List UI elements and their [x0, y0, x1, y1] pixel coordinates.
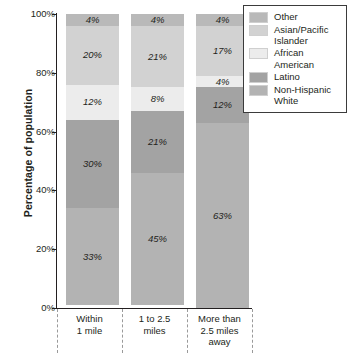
- legend-label: Other: [274, 11, 298, 22]
- bar-segment-label: 20%: [83, 50, 102, 60]
- bar-segment-label: 4%: [216, 15, 230, 25]
- category-label-line: 1 to 2.5: [123, 313, 187, 325]
- category-divider: [252, 309, 253, 353]
- bar-segment[interactable]: 21%: [131, 26, 184, 88]
- bar-segment-label: 21%: [148, 52, 167, 62]
- legend-item-4[interactable]: Non-HispanicWhite: [249, 84, 342, 106]
- bar-segment[interactable]: 4%: [66, 14, 119, 26]
- bar-segment-label: 4%: [216, 77, 230, 87]
- y-axis-tick-label: 40%: [15, 186, 55, 196]
- category-label-line: away: [188, 336, 252, 348]
- legend-label: Asian/PacificIslander: [274, 24, 328, 46]
- legend-label-line: Latino: [274, 71, 300, 82]
- bar-segment[interactable]: 45%: [131, 173, 184, 305]
- bar-segment[interactable]: 17%: [196, 26, 249, 76]
- y-axis-tick-label: 60%: [15, 127, 55, 137]
- legend: OtherAsian/PacificIslanderAfricanAmerica…: [243, 5, 347, 113]
- legend-item-1[interactable]: Asian/PacificIslander: [249, 24, 342, 46]
- legend-item-0[interactable]: Other: [249, 11, 342, 23]
- legend-item-3[interactable]: Latino: [249, 71, 342, 83]
- bar-segment-label: 4%: [86, 15, 100, 25]
- legend-swatch: [249, 12, 268, 23]
- legend-label-line: Islander: [274, 35, 328, 46]
- bar-segment[interactable]: 4%: [196, 76, 249, 88]
- category-label-line: 1 mile: [58, 325, 122, 337]
- bar-segment[interactable]: 8%: [131, 87, 184, 111]
- bar-segment-label: 63%: [213, 211, 232, 221]
- legend-label-line: African: [274, 47, 314, 58]
- legend-swatch: [249, 72, 268, 83]
- bar-column-0[interactable]: 4%20%12%30%33%: [66, 14, 119, 308]
- legend-swatch: [249, 25, 268, 36]
- bar-segment[interactable]: 20%: [66, 26, 119, 85]
- legend-label: AfricanAmerican: [274, 47, 314, 69]
- bar-segment-label: 12%: [213, 100, 232, 110]
- bar-segment[interactable]: 12%: [196, 87, 249, 122]
- y-axis-tick-label: 20%: [15, 244, 55, 254]
- legend-label: Non-HispanicWhite: [274, 84, 331, 106]
- bar-segment-label: 8%: [151, 94, 165, 104]
- category-label-line: miles: [123, 325, 187, 337]
- legend-swatch: [249, 48, 268, 59]
- bar-segment[interactable]: 30%: [66, 120, 119, 208]
- bar-segment[interactable]: 33%: [66, 208, 119, 305]
- bar-segment-label: 17%: [213, 46, 232, 56]
- legend-label-line: American: [274, 59, 314, 70]
- x-axis-category-label-1: 1 to 2.5miles: [123, 313, 187, 336]
- category-label-line: 2.5 miles: [188, 325, 252, 337]
- bar-segment-label: 33%: [83, 252, 102, 262]
- category-label-line: Within: [58, 313, 122, 325]
- legend-label-line: Asian/Pacific: [274, 24, 328, 35]
- bar-segment-label: 45%: [148, 234, 167, 244]
- y-axis-tick-label: 80%: [15, 68, 55, 78]
- category-label-line: More than: [188, 313, 252, 325]
- x-axis-line: [56, 308, 252, 309]
- stacked-bar-chart: Percentage of population 100%80%60%40%20…: [0, 0, 351, 356]
- x-axis-category-label-0: Within1 mile: [58, 313, 122, 336]
- bar-segment-label: 21%: [148, 137, 167, 147]
- plot-area: 4%20%12%30%33%4%21%8%21%45%4%17%4%12%63%: [57, 14, 252, 308]
- x-axis-category-label-2: More than2.5 milesaway: [188, 313, 252, 348]
- bar-column-2[interactable]: 4%17%4%12%63%: [196, 14, 249, 308]
- bar-segment-label: 12%: [83, 97, 102, 107]
- bar-segment-label: 30%: [83, 159, 102, 169]
- bar-segment[interactable]: 4%: [131, 14, 184, 26]
- legend-label-line: Non-Hispanic: [274, 84, 331, 95]
- y-axis-tick-label: 100%: [15, 9, 55, 19]
- y-axis-tick-label: 0%: [15, 303, 55, 313]
- bar-column-1[interactable]: 4%21%8%21%45%: [131, 14, 184, 308]
- bar-segment[interactable]: 12%: [66, 85, 119, 120]
- bar-segment[interactable]: 21%: [131, 111, 184, 173]
- legend-items: OtherAsian/PacificIslanderAfricanAmerica…: [249, 11, 342, 106]
- bar-segment[interactable]: 63%: [196, 123, 249, 308]
- bar-segment-label: 4%: [151, 15, 165, 25]
- legend-item-2[interactable]: AfricanAmerican: [249, 47, 342, 69]
- legend-swatch: [249, 85, 268, 96]
- legend-label-line: White: [274, 95, 331, 106]
- legend-label: Latino: [274, 71, 300, 82]
- bar-segment[interactable]: 4%: [196, 14, 249, 26]
- legend-label-line: Other: [274, 11, 298, 22]
